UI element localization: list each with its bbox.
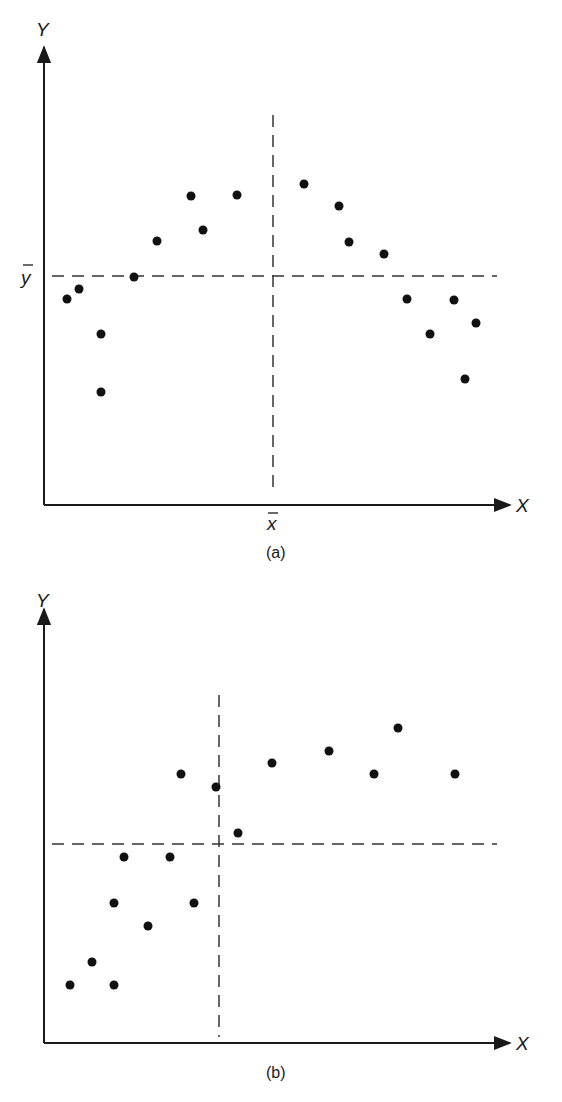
data-point <box>335 202 344 211</box>
data-point <box>75 285 84 294</box>
data-point <box>451 770 460 779</box>
data-point <box>394 724 403 733</box>
data-point <box>97 330 106 339</box>
data-point <box>97 388 106 397</box>
data-point <box>461 375 470 384</box>
y-axis-label-b: Y <box>36 590 50 611</box>
data-point <box>426 330 435 339</box>
svg-text:x: x <box>266 513 278 534</box>
data-point <box>153 237 162 246</box>
data-point <box>63 295 72 304</box>
data-point <box>268 759 277 768</box>
panel-b: Y X (b) <box>36 590 530 1081</box>
data-point <box>88 958 97 967</box>
y-axis-label-a: Y <box>36 19 50 40</box>
data-point <box>370 770 379 779</box>
data-point <box>110 899 119 908</box>
panel-a: Y X y x (a) <box>19 19 530 561</box>
data-point <box>177 770 186 779</box>
data-point <box>187 192 196 201</box>
data-point <box>110 981 119 990</box>
caption-b: (b) <box>266 1064 286 1081</box>
data-point <box>300 180 309 189</box>
data-point <box>212 783 221 792</box>
data-point <box>403 295 412 304</box>
data-point <box>325 747 334 756</box>
x-mean-label-a: x <box>266 513 278 534</box>
figure: Y X y x (a) Y X (b) <box>0 0 562 1102</box>
data-point <box>450 296 459 305</box>
data-point <box>144 922 153 931</box>
data-point <box>130 273 139 282</box>
data-point <box>234 829 243 838</box>
data-points-a <box>63 180 481 397</box>
data-points-b <box>66 724 460 990</box>
data-point <box>345 238 354 247</box>
caption-a: (a) <box>266 544 286 561</box>
data-point <box>66 981 75 990</box>
svg-text:y: y <box>19 267 32 288</box>
data-point <box>233 191 242 200</box>
x-axis-label-a: X <box>515 495 530 516</box>
x-axis-label-b: X <box>515 1033 530 1054</box>
y-mean-label-a: y <box>19 265 33 288</box>
data-point <box>120 853 129 862</box>
data-point <box>472 319 481 328</box>
data-point <box>380 250 389 259</box>
data-point <box>199 226 208 235</box>
data-point <box>166 853 175 862</box>
data-point <box>190 899 199 908</box>
